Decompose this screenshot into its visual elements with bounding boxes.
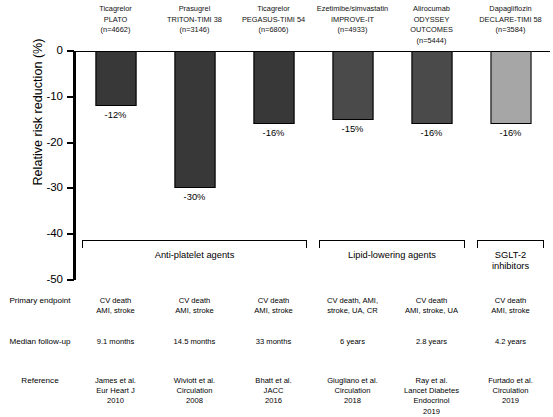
reference-cell-line: Wiviott et al. <box>156 376 233 386</box>
reference-cell-line: 2016 <box>235 396 312 406</box>
column-header-sample-size: (n=4933) <box>314 25 391 36</box>
reference-cell-line: Giugliano et al. <box>314 376 391 386</box>
column-header-trial: DECLARE-TIMI 58 <box>472 15 549 26</box>
reference-cell: Ray et al.Lancet Diabetes Endocrinol2019 <box>392 376 471 417</box>
column-header: TicagrelorPLATO(n=4662) <box>76 4 155 50</box>
median-followup-cell-line: 33 months <box>235 337 312 347</box>
column-header-drug: Ticagrelor <box>77 4 154 15</box>
annotation-table: Primary endpoint CV deathAMI, strokeCV d… <box>0 296 553 417</box>
primary-endpoint-cell: CV death, AMI,stroke, UA, CR <box>313 296 392 316</box>
column-header: AlirocumabODYSSEY OUTCOMES(n=5444) <box>392 4 471 50</box>
median-followup-cell: 6 years <box>313 337 392 347</box>
reference-cell-line: 2010 <box>77 396 154 406</box>
median-followup-cell: 4.2 years <box>471 337 550 347</box>
bracket-line <box>319 240 465 248</box>
primary-endpoint-cell-line: AMI, stroke <box>472 306 549 316</box>
row-label-line: Reference <box>21 376 58 385</box>
bar[interactable] <box>332 51 373 120</box>
median-followup-cell-line: 14.5 months <box>156 337 233 347</box>
median-followup-cell-line: 4.2 years <box>472 337 549 347</box>
reference-cell-line: 2019 <box>472 396 549 406</box>
median-followup-cell-line: 2.8 years <box>393 337 470 347</box>
reference-cell-line: JACC <box>235 386 312 396</box>
reference-cell-line: Lancet Diabetes Endocrinol <box>393 386 470 406</box>
column-header-sample-size: (n=3146) <box>156 25 233 36</box>
chart-figure: TicagrelorPLATO(n=4662)PrasugrelTRITON-T… <box>0 0 553 417</box>
y-tick-mark <box>67 279 74 281</box>
median-followup-cell-line: 6 years <box>314 337 391 347</box>
primary-endpoint-cell-line: CV death <box>156 296 233 306</box>
column-header-trial: PEGASUS-TIMI 54 <box>235 15 312 26</box>
median-followup-cell-line: 9.1 months <box>77 337 154 347</box>
bar[interactable] <box>95 51 136 106</box>
endpoint-cells: CV deathAMI, strokeCV deathAMI, strokeCV… <box>76 296 550 316</box>
primary-endpoint-cell: CV deathAMI, stroke <box>155 296 234 316</box>
row-label-line: Primary <box>9 296 37 305</box>
reference-cell-line: 2019 <box>393 407 470 417</box>
group-label: Anti-platelet agents <box>82 250 307 261</box>
row-label-median-followup: Median follow-up <box>4 337 76 347</box>
reference-cell-line: Eur Heart J <box>77 386 154 396</box>
y-axis-label: Relative risk reduction (%) <box>31 12 45 212</box>
reference-cell-line: Ray et al. <box>393 376 470 386</box>
reference-cell-line: James et al. <box>77 376 154 386</box>
primary-endpoint-cell: CV deathAMI, stroke <box>471 296 550 316</box>
column-header-trial: ODYSSEY OUTCOMES <box>393 15 470 36</box>
column-header-trial: TRITON-TIMI 38 <box>156 15 233 26</box>
primary-endpoint-cell-line: CV death, AMI, <box>314 296 391 306</box>
group-bracket: SGLT-2 inhibitors <box>477 240 544 272</box>
primary-endpoint-cell: CV deathAMI, stroke <box>234 296 313 316</box>
y-tick-mark <box>67 233 74 235</box>
reference-cell: Bhatt et al.JACC2016 <box>234 376 313 417</box>
column-header-sample-size: (n=3584) <box>472 25 549 36</box>
reference-cell-line: Bhatt et al. <box>235 376 312 386</box>
primary-endpoint-cell-line: AMI, stroke, UA <box>393 306 470 316</box>
group-bracket: Lipid-lowering agents <box>319 240 465 261</box>
column-header: PrasugrelTRITON-TIMI 38(n=3146) <box>155 4 234 50</box>
column-header-drug: Prasugrel <box>156 4 233 15</box>
row-label-line: endpoint <box>40 296 71 305</box>
y-tick-mark <box>67 50 74 52</box>
primary-endpoint-cell: CV deathAMI, stroke, UA <box>392 296 471 316</box>
median-followup-cell: 14.5 months <box>155 337 234 347</box>
bar-value-label: -30% <box>184 191 206 202</box>
primary-endpoint-cell-line: AMI, stroke <box>235 306 312 316</box>
row-label-line: follow-up <box>38 337 70 346</box>
row-label-primary-endpoint: Primary endpoint <box>4 296 76 306</box>
column-header-sample-size: (n=5444) <box>393 36 470 47</box>
row-label-line: Median <box>9 337 36 346</box>
y-tick-mark <box>67 142 74 144</box>
bar-value-label: -12% <box>105 109 127 120</box>
reference-cells: James et al.Eur Heart J2010Wiviott et al… <box>76 376 550 417</box>
bar-value-label: -16% <box>421 127 443 138</box>
column-header-drug: Ezetimibe/simvastatin <box>314 4 391 15</box>
group-bracket: Anti-platelet agents <box>82 240 307 261</box>
bar-value-label: -15% <box>342 123 364 134</box>
reference-cell-line: Circulation <box>314 386 391 396</box>
column-header: Ezetimibe/simvastatinIMPROVE-IT(n=4933) <box>313 4 392 50</box>
bar[interactable] <box>253 51 294 124</box>
primary-endpoint-cell-line: CV death <box>235 296 312 306</box>
primary-endpoint-cell-line: CV death <box>77 296 154 306</box>
y-tick-mark <box>67 96 74 98</box>
row-label-reference: Reference <box>4 376 76 386</box>
group-brackets: Anti-platelet agentsLipid-lowering agent… <box>76 240 550 292</box>
column-header-drug: Alirocumab <box>393 4 470 15</box>
primary-endpoint-cell-line: AMI, stroke <box>156 306 233 316</box>
column-header-trial: PLATO <box>77 15 154 26</box>
bracket-line <box>477 240 544 248</box>
column-header-sample-size: (n=4662) <box>77 25 154 36</box>
reference-cell: Furtado et al.Circulation2019 <box>471 376 550 417</box>
bar[interactable] <box>411 51 452 124</box>
reference-cell-line: 2018 <box>314 396 391 406</box>
bar[interactable] <box>490 51 531 124</box>
column-header-trial: IMPROVE-IT <box>314 15 391 26</box>
primary-endpoint-cell: CV deathAMI, stroke <box>76 296 155 316</box>
column-header-drug: Dapagliflozin <box>472 4 549 15</box>
column-header-sample-size: (n=6806) <box>235 25 312 36</box>
median-followup-cell: 9.1 months <box>76 337 155 347</box>
y-tick-mark <box>67 187 74 189</box>
reference-cell-line: Circulation <box>472 386 549 396</box>
bracket-line <box>82 240 307 248</box>
bar[interactable] <box>174 51 215 188</box>
